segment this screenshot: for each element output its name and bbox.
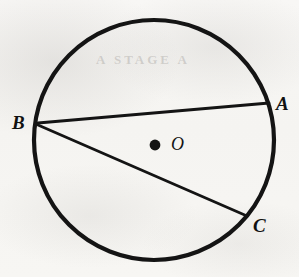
vertex-label-c: C — [253, 216, 266, 235]
chord-B-to-C — [38, 125, 247, 216]
vertex-label-a: A — [276, 94, 289, 113]
center-point-O — [150, 140, 161, 151]
circle-geometry-figure: A STAGE A A B C O — [0, 0, 299, 277]
vertex-label-b: B — [12, 113, 25, 132]
center-label-o: O — [171, 135, 184, 153]
chord-B-to-A — [38, 103, 269, 123]
